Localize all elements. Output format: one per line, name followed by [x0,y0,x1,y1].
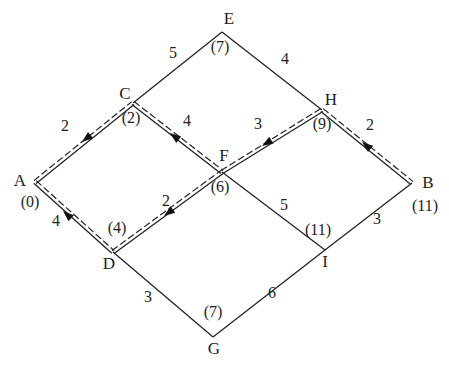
edge-DG-line [113,252,213,337]
edge-EH-line [222,32,322,110]
node-D-distance: (4) [108,219,127,237]
edge-FI-line [222,172,325,250]
edge-GI-weight: 6 [268,284,276,301]
edge-IB-line [325,183,412,250]
node-F-distance: (6) [211,178,230,196]
node-C-distance: (2) [122,109,141,127]
edge-AC-line [36,104,134,183]
node-H-label: H [325,90,337,109]
node-G-label: G [208,339,220,358]
node-B-label: B [422,173,433,192]
node-C-label: C [119,84,130,103]
node-B-distance: (11) [412,197,438,215]
edge-IB-weight: 3 [373,210,381,227]
edge-FH-line [223,112,323,174]
edge-AD-line [34,183,112,253]
weighted-graph-diagram: 254243425336A(0)B(11)C(2)D(4)E(7)F(6)G(7… [0,0,449,368]
node-E-label: E [224,9,234,28]
edge-AD-weight: 4 [52,212,60,229]
arrowhead-FH [262,137,273,146]
edge-EH-weight: 4 [281,50,289,67]
node-F-label: F [219,146,228,165]
edge-CE-line [133,32,222,103]
edge-AD-path-marker [36,181,114,251]
node-H-distance: (9) [313,115,332,133]
edge-CE-weight: 5 [169,44,177,61]
edge-DF-path-marker [112,171,221,251]
node-E-distance: (7) [211,38,230,56]
edge-CF-weight: 4 [183,112,191,129]
edge-AC-weight: 2 [61,117,69,134]
edge-HB-weight: 2 [366,116,374,133]
node-A-label: A [14,171,27,190]
node-D-label: D [103,254,115,273]
edge-FH-path-marker [221,108,321,170]
edge-DF-weight: 2 [162,192,170,209]
node-A-distance: (0) [21,193,40,211]
node-I-distance: (11) [305,221,331,239]
node-G-distance: (7) [204,303,223,321]
arrowhead-HB [362,142,373,152]
graph-figure: 254243425336A(0)B(11)C(2)D(4)E(7)F(6)G(7… [0,0,449,368]
node-I-label: I [322,252,328,271]
edge-DG-weight: 3 [144,288,152,305]
edge-FH-weight: 3 [254,115,262,132]
edge-FI-weight: 5 [280,196,288,213]
arrowhead-AD [63,211,74,221]
